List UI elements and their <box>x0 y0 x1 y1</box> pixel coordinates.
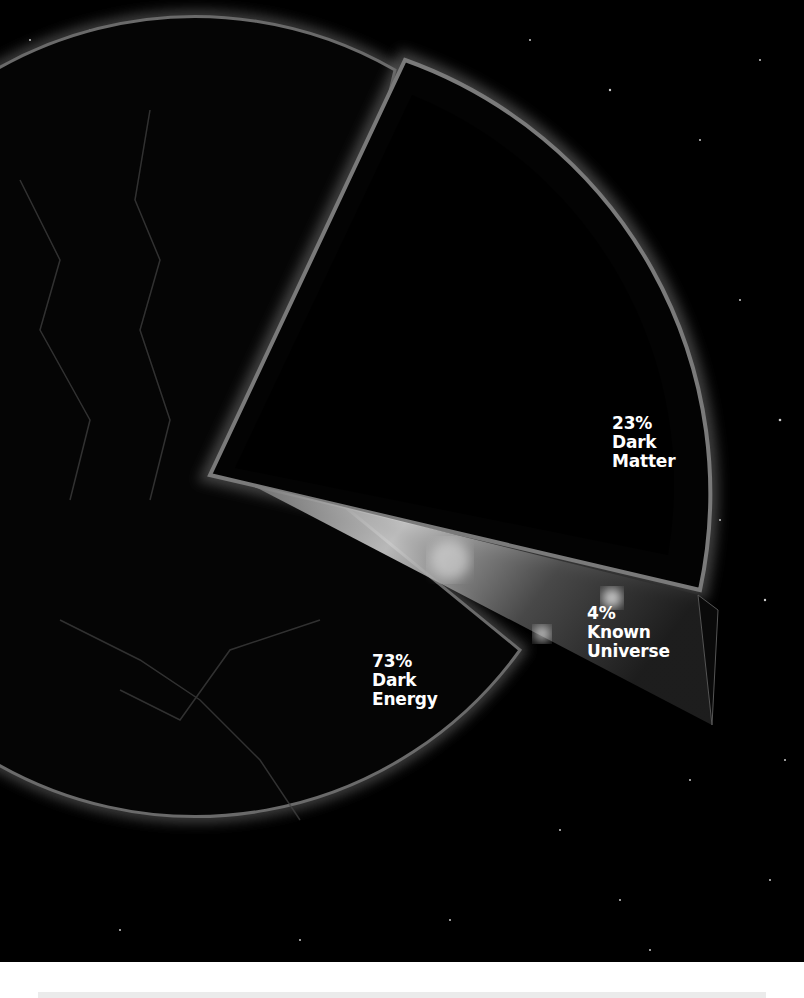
pie-chart <box>0 0 804 962</box>
dark-matter-line1: Dark <box>612 433 675 452</box>
known-universe-percent: 4% <box>587 604 670 623</box>
label-dark-energy: 73% Dark Energy <box>372 652 438 709</box>
dark-energy-line1: Dark <box>372 671 438 690</box>
dark-energy-line2: Energy <box>372 690 438 709</box>
dark-matter-line2: Matter <box>612 452 675 471</box>
footer-bar <box>38 992 766 998</box>
dark-matter-percent: 23% <box>612 414 675 433</box>
known-universe-line2: Universe <box>587 642 670 661</box>
label-dark-matter: 23% Dark Matter <box>612 414 675 471</box>
space-background: 23% Dark Matter 4% Known Universe 73% Da… <box>0 0 804 962</box>
dark-energy-percent: 73% <box>372 652 438 671</box>
label-known-universe: 4% Known Universe <box>587 604 670 661</box>
known-universe-line1: Known <box>587 623 670 642</box>
